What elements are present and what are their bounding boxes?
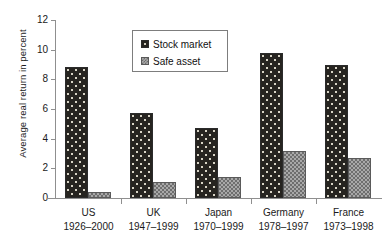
- legend-swatch-icon: [141, 40, 149, 48]
- bar-safe-asset-france: [348, 158, 371, 198]
- bar-safe-asset-us: [88, 192, 111, 198]
- y-tick-label: 12: [26, 14, 48, 25]
- bar-group-germany: [251, 20, 316, 198]
- legend-label: Safe asset: [153, 56, 200, 67]
- x-label-years: 1926–2000: [56, 220, 121, 234]
- bar-stock-market-japan: [195, 128, 218, 198]
- x-label-name: Japan: [186, 206, 251, 220]
- x-axis-line: [47, 198, 382, 199]
- bar-safe-asset-japan: [218, 177, 241, 198]
- bar-stock-market-us: [65, 67, 88, 198]
- x-axis-separator-tick: [316, 198, 317, 204]
- legend-item-stock-market: Stock market: [141, 36, 227, 52]
- bar-safe-asset-germany: [283, 151, 306, 198]
- x-axis-separator-tick: [121, 198, 122, 204]
- bar-stock-market-germany: [260, 53, 283, 198]
- y-tick-label: 0: [26, 192, 48, 203]
- x-label-name: France: [316, 206, 381, 220]
- x-label-years: 1978–1997: [251, 220, 316, 234]
- legend-label: Stock market: [153, 39, 211, 50]
- x-axis-separator-tick: [186, 198, 187, 204]
- bar-safe-asset-uk: [153, 182, 176, 198]
- x-label-france: France 1973–1998: [316, 206, 381, 233]
- y-tick-label: 6: [26, 103, 48, 114]
- x-label-japan: Japan 1970–1999: [186, 206, 251, 233]
- x-label-years: 1970–1999: [186, 220, 251, 234]
- bar-group-us: [56, 20, 121, 198]
- x-label-name: US: [56, 206, 121, 220]
- x-label-name: UK: [121, 206, 186, 220]
- bar-chart: Average real return in percent 12 10 8 6…: [0, 0, 389, 247]
- chart-legend: Stock market Safe asset: [132, 30, 228, 72]
- bar-group-france: [316, 20, 381, 198]
- legend-item-safe-asset: Safe asset: [141, 53, 227, 69]
- y-tick-label: 2: [26, 162, 48, 173]
- y-tick-label: 8: [26, 73, 48, 84]
- y-axis-tick-labels: 12 10 8 6 4 2 0: [22, 0, 48, 247]
- y-tick-label: 10: [26, 44, 48, 55]
- x-label-years: 1947–1999: [121, 220, 186, 234]
- x-label-uk: UK 1947–1999: [121, 206, 186, 233]
- bar-stock-market-uk: [130, 113, 153, 198]
- bar-stock-market-france: [325, 65, 348, 199]
- legend-swatch-icon: [141, 57, 149, 65]
- x-label-germany: Germany 1978–1997: [251, 206, 316, 233]
- x-label-us: US 1926–2000: [56, 206, 121, 233]
- y-tick-label: 4: [26, 133, 48, 144]
- x-axis-separator-tick: [251, 198, 252, 204]
- x-label-years: 1973–1998: [316, 220, 381, 234]
- x-label-name: Germany: [251, 206, 316, 220]
